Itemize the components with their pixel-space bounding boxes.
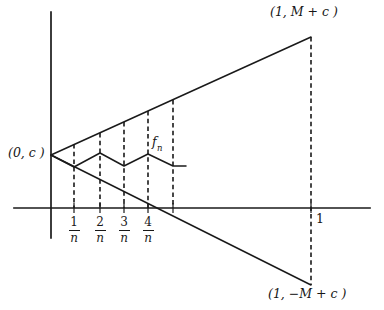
x-tick-label-fraction: 1 n — [63, 216, 85, 244]
point-label-bottom-right: (1, −M + c ) — [268, 288, 346, 301]
x-tick-label-fraction: 4 n — [137, 216, 159, 244]
point-label-top-right: (1, M + c ) — [270, 6, 338, 19]
function-label-subscript: n — [157, 143, 162, 153]
fraction-numerator: 3 — [113, 216, 135, 229]
function-label-base: f — [152, 134, 157, 149]
fraction-denominator: n — [137, 232, 159, 245]
fraction-denominator: n — [113, 232, 135, 245]
diagram-background — [0, 0, 384, 310]
point-label-origin: (0, c ) — [8, 147, 45, 160]
fraction-denominator: n — [63, 232, 85, 245]
x-tick-label-one: 1 — [316, 213, 324, 226]
fraction-denominator: n — [89, 232, 111, 245]
math-diagram — [0, 0, 384, 310]
x-tick-label-fraction: 3 n — [113, 216, 135, 244]
x-tick-label-fraction: 2 n — [89, 216, 111, 244]
fraction-numerator: 1 — [63, 216, 85, 229]
function-label-fn: fn — [152, 136, 162, 151]
fraction-numerator: 2 — [89, 216, 111, 229]
fraction-numerator: 4 — [137, 216, 159, 229]
